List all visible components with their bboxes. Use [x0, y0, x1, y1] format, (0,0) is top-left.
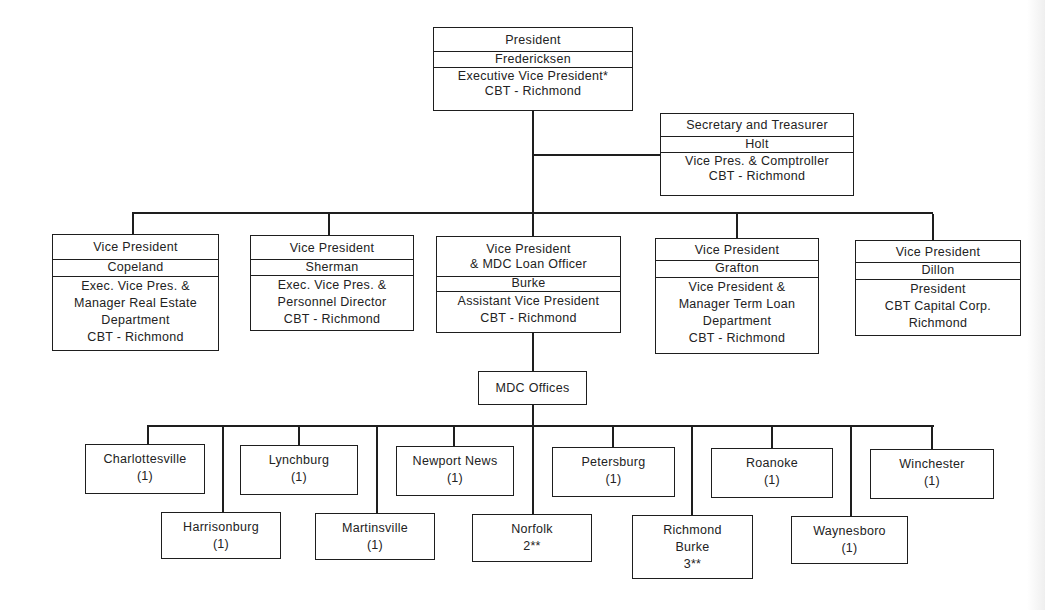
president-box[interactable]: President Fredericksen Executive Vice Pr…: [433, 27, 633, 111]
office-harrisonburg[interactable]: Harrisonburg (1): [161, 512, 281, 559]
mdc-offices-box[interactable]: MDC Offices: [478, 371, 587, 405]
vp-drop-dillon: [932, 214, 934, 241]
title-text: President: [434, 33, 632, 48]
role-line: Personnel Director: [251, 294, 413, 311]
office-martinsville[interactable]: Martinsville (1): [315, 513, 435, 560]
office-count: (1): [397, 470, 513, 487]
office-count: (1): [86, 468, 204, 485]
office-name: Lynchburg: [241, 452, 357, 469]
title-text: Vice President: [251, 241, 413, 256]
title-text: Secretary and Treasurer: [661, 118, 853, 133]
name-text: Fredericksen: [434, 52, 632, 66]
president-name: Fredericksen: [434, 52, 632, 68]
vp-name: Sherman: [251, 260, 413, 276]
role-line: Richmond: [856, 315, 1020, 332]
drop-harrisonburg: [222, 425, 224, 513]
drop-martinsville: [376, 426, 378, 514]
office-name: Martinsville: [316, 520, 434, 537]
role-line: CBT - Richmond: [251, 311, 413, 328]
secretary-role: Vice Pres. & Comptroller CBT - Richmond: [661, 153, 853, 195]
vp-box-dillon[interactable]: Vice President Dillon President CBT Capi…: [855, 240, 1021, 336]
drop-charlottesville: [147, 425, 149, 445]
office-count: 2**: [473, 538, 591, 555]
office-lynchburg[interactable]: Lynchburg (1): [240, 445, 358, 495]
office-roanoke[interactable]: Roanoke (1): [711, 448, 833, 498]
vp-role: Vice President & Manager Term Loan Depar…: [656, 278, 818, 353]
name-text: Burke: [437, 277, 620, 290]
office-name: Norfolk: [473, 521, 591, 538]
drop-waynesboro: [850, 427, 852, 517]
office-name: Richmond: [633, 522, 752, 539]
president-title: President: [434, 28, 632, 52]
office-count: (1): [316, 537, 434, 554]
title-text: Vice President: [656, 243, 818, 258]
vp-box-sherman[interactable]: Vice President Sherman Exec. Vice Pres. …: [250, 235, 414, 331]
title-text: Vice President: [856, 245, 1020, 260]
office-name: Newport News: [397, 453, 513, 470]
secretary-box[interactable]: Secretary and Treasurer Holt Vice Pres. …: [660, 113, 854, 196]
office-count: 3**: [633, 556, 752, 573]
office-count: (1): [871, 473, 993, 490]
role-line: CBT - Richmond: [661, 169, 853, 184]
role-line: Department: [656, 313, 818, 330]
office-newport-news[interactable]: Newport News (1): [396, 446, 514, 496]
vp-role: Exec. Vice Pres. & Personnel Director CB…: [251, 276, 413, 330]
role-line: Vice Pres. & Comptroller: [661, 154, 853, 169]
drop-petersburg: [612, 426, 614, 448]
vp-drop-copeland: [132, 212, 134, 235]
mdc-offices-label: MDC Offices: [479, 380, 586, 397]
vp-title: Vice President: [251, 236, 413, 260]
role-line: Exec. Vice Pres. &: [251, 277, 413, 294]
vp-name: Copeland: [53, 260, 218, 277]
vp-drop-grafton: [736, 214, 738, 239]
role-line: President: [856, 281, 1020, 298]
name-text: Holt: [661, 137, 853, 151]
role-line: Assistant Vice President: [437, 293, 620, 310]
secretary-connector: [532, 154, 661, 156]
vp-name: Grafton: [656, 261, 818, 278]
office-name: Waynesboro: [792, 523, 907, 540]
title-text: & MDC Loan Officer: [437, 257, 620, 272]
vp-role: Exec. Vice Pres. & Manager Real Estate D…: [53, 277, 218, 350]
vp-title: Vice President: [856, 241, 1020, 263]
name-text: Sherman: [251, 260, 413, 274]
drop-newport-news: [453, 426, 455, 447]
drop-winchester: [931, 427, 933, 450]
name-text: Dillon: [856, 263, 1020, 278]
office-count: (1): [553, 471, 674, 488]
office-count: (1): [241, 469, 357, 486]
drop-roanoke: [771, 427, 773, 449]
offices-bar: [147, 425, 934, 427]
office-petersburg[interactable]: Petersburg (1): [552, 447, 675, 497]
office-winchester[interactable]: Winchester (1): [870, 449, 994, 499]
role-line: CBT Capital Corp.: [856, 298, 1020, 315]
office-count: (1): [162, 536, 280, 553]
office-richmond[interactable]: Richmond Burke 3**: [632, 515, 753, 579]
title-text: Vice President: [437, 242, 620, 257]
role-line: CBT - Richmond: [53, 329, 218, 346]
vp-name: Dillon: [856, 263, 1020, 280]
role-line: CBT - Richmond: [656, 330, 818, 347]
vp-name: Burke: [437, 277, 620, 292]
name-text: Grafton: [656, 261, 818, 276]
role-line: Manager Real Estate: [53, 295, 218, 312]
office-norfolk[interactable]: Norfolk 2**: [472, 514, 592, 562]
vp-title: Vice President & MDC Loan Officer: [437, 237, 620, 277]
role-line: CBT - Richmond: [434, 84, 632, 99]
vp-bar: [132, 212, 933, 214]
title-text: Vice President: [53, 240, 218, 255]
vp-box-copeland[interactable]: Vice President Copeland Exec. Vice Pres.…: [52, 234, 219, 351]
vp-box-burke[interactable]: Vice President & MDC Loan Officer Burke …: [436, 236, 621, 333]
vp-title: Vice President: [53, 235, 218, 260]
office-name: Petersburg: [553, 454, 674, 471]
name-text: Copeland: [53, 260, 218, 275]
role-line: Exec. Vice Pres. &: [53, 278, 218, 295]
page-edge-shadow: [1027, 0, 1045, 610]
president-role: Executive Vice President* CBT - Richmond: [434, 68, 632, 110]
secretary-name: Holt: [661, 137, 853, 153]
office-name: Roanoke: [712, 455, 832, 472]
office-charlottesville[interactable]: Charlottesville (1): [85, 444, 205, 494]
role-line: Vice President &: [656, 279, 818, 296]
vp-box-grafton[interactable]: Vice President Grafton Vice President & …: [655, 238, 819, 354]
office-waynesboro[interactable]: Waynesboro (1): [791, 516, 908, 564]
